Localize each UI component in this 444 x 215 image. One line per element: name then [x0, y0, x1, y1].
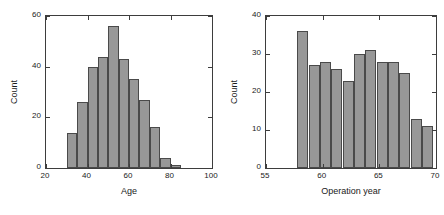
- y-axis-tick-right: [208, 117, 212, 118]
- histogram-bar: [354, 54, 365, 168]
- figure-container: 020406020406080100 Age Count 01020304055…: [0, 0, 444, 215]
- axes-frame-operation-year: [265, 15, 437, 169]
- x-axis-tick: [46, 164, 47, 168]
- y-axis-tick: [266, 54, 270, 55]
- x-axis-tick-top: [212, 16, 213, 20]
- histogram-bar: [365, 50, 376, 168]
- y-axis-tick-label: 40: [23, 62, 41, 70]
- x-axis-tick: [266, 164, 267, 168]
- x-axis-tick-label: 60: [124, 172, 133, 180]
- histogram-bar: [388, 62, 399, 168]
- y-axis-tick: [46, 168, 50, 169]
- x-axis-tick-top: [323, 16, 324, 20]
- y-axis-tick-right: [208, 67, 212, 68]
- bars-area-operation-year: [266, 16, 436, 168]
- x-axis-title-age: Age: [121, 186, 137, 196]
- y-axis-tick-label: 20: [243, 87, 261, 95]
- histogram-bar: [411, 119, 422, 168]
- x-axis-tick: [88, 164, 89, 168]
- y-axis-tick: [266, 130, 270, 131]
- x-axis-tick-label: 60: [317, 172, 326, 180]
- histogram-bar: [343, 81, 354, 168]
- histogram-bar: [331, 69, 342, 168]
- bars-area-age: [46, 16, 212, 168]
- x-axis-tick-label: 20: [41, 172, 50, 180]
- y-axis-tick: [46, 117, 50, 118]
- x-axis-tick: [212, 164, 213, 168]
- y-axis-tick-label: 0: [23, 163, 41, 171]
- y-axis-tick-label: 0: [243, 163, 261, 171]
- y-axis-title-age: Count: [9, 80, 19, 104]
- x-axis-tick-top: [266, 16, 267, 20]
- histogram-bar: [171, 165, 181, 168]
- x-axis-tick-label: 80: [165, 172, 174, 180]
- y-axis-tick-right: [208, 168, 212, 169]
- histogram-bar: [309, 65, 320, 168]
- x-axis-tick-top: [88, 16, 89, 20]
- x-axis-tick-label: 70: [431, 172, 440, 180]
- axes-frame-age: [45, 15, 213, 169]
- x-axis-tick-top: [46, 16, 47, 20]
- y-axis-tick: [266, 168, 270, 169]
- histogram-bar: [160, 158, 170, 168]
- x-axis-tick-top: [129, 16, 130, 20]
- histogram-bar: [77, 102, 87, 168]
- x-axis-tick-top: [171, 16, 172, 20]
- histogram-bar: [377, 62, 388, 168]
- y-axis-tick-label: 30: [243, 49, 261, 57]
- histogram-bar: [320, 62, 331, 168]
- y-axis-tick-right: [432, 54, 436, 55]
- x-axis-tick-label: 65: [374, 172, 383, 180]
- chart-panel-age: 020406020406080100 Age Count: [0, 0, 222, 215]
- y-axis-tick-label: 20: [23, 112, 41, 120]
- x-axis-tick-label: 55: [261, 172, 270, 180]
- histogram-bar: [88, 67, 98, 168]
- x-axis-tick-label: 40: [82, 172, 91, 180]
- y-axis-title-operation-year: Count: [229, 80, 239, 104]
- y-axis-tick-label: 40: [243, 11, 261, 19]
- x-axis-title-operation-year: Operation year: [321, 186, 381, 196]
- x-axis-tick: [379, 164, 380, 168]
- histogram-bar: [297, 31, 308, 168]
- histogram-bar: [139, 100, 149, 168]
- x-axis-tick: [323, 164, 324, 168]
- chart-panel-operation-year: 01020304055606570 Operation year Count: [222, 0, 444, 215]
- x-axis-tick: [129, 164, 130, 168]
- y-axis-tick-right: [432, 92, 436, 93]
- histogram-bar: [67, 133, 77, 168]
- histogram-bar: [119, 59, 129, 168]
- histogram-bar: [422, 126, 433, 168]
- x-axis-tick-top: [436, 16, 437, 20]
- x-axis-tick-top: [379, 16, 380, 20]
- histogram-bar: [399, 73, 410, 168]
- histogram-bar: [108, 26, 118, 168]
- histogram-bar: [98, 57, 108, 168]
- y-axis-tick: [46, 67, 50, 68]
- y-axis-tick-right: [432, 130, 436, 131]
- x-axis-tick: [436, 164, 437, 168]
- x-axis-tick-label: 100: [204, 172, 217, 180]
- histogram-bar: [129, 79, 139, 168]
- y-axis-tick: [266, 92, 270, 93]
- histogram-bar: [150, 127, 160, 168]
- x-axis-tick: [171, 164, 172, 168]
- y-axis-tick-right: [432, 168, 436, 169]
- y-axis-tick-label: 60: [23, 11, 41, 19]
- y-axis-tick-label: 10: [243, 125, 261, 133]
